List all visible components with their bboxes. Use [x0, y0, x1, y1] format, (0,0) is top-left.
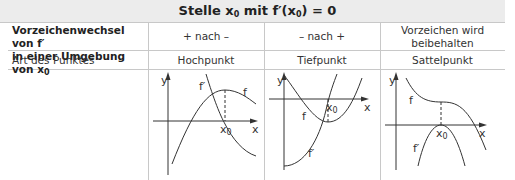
table-title: Stelle x0 mit f′(x0) = 0	[0, 3, 515, 18]
label-x: x	[252, 123, 259, 136]
label-f: f	[409, 94, 414, 107]
label-f-prime: f′	[199, 80, 206, 93]
row-label-art-des-punktes: Art des Punktes	[12, 54, 147, 67]
label-x0: x0	[326, 101, 338, 115]
cell-plus-nach-minus: + nach –	[148, 30, 264, 43]
label-y: y	[389, 74, 396, 87]
label-f-prime: f′	[413, 142, 420, 155]
label-y: y	[277, 74, 284, 87]
label-f: f	[243, 86, 248, 99]
curve-f-prime	[206, 74, 256, 156]
label-x: x	[479, 127, 486, 140]
label-x0: x0	[436, 127, 448, 141]
cell-tiefpunkt: Tiefpunkt	[264, 54, 380, 67]
cell-sattelpunkt: Sattelpunkt	[380, 54, 505, 67]
label-f: f	[302, 110, 307, 123]
graph-sattelpunkt: y x f f′ x0	[380, 70, 505, 180]
label-y: y	[161, 74, 168, 87]
label-x0: x0	[220, 123, 232, 137]
graph-tiefpunkt: y x f f′ x0	[264, 70, 380, 180]
graph-hochpunkt: y x f f′ x0	[148, 70, 264, 180]
label-f-prime: f′	[308, 147, 315, 160]
row-label-vorzeichenwechsel: Vorzeichenwechsel von f′ in einer Umgebu…	[12, 24, 147, 76]
cell-hochpunkt: Hochpunkt	[148, 54, 264, 67]
cell-minus-nach-plus: – nach +	[264, 30, 380, 43]
label-x: x	[364, 101, 371, 114]
curve-f	[172, 90, 256, 164]
cell-vorzeichen-beibehalten: Vorzeichen wird beibehalten	[380, 24, 505, 50]
